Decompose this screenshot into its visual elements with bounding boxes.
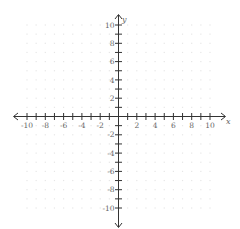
grid-dot: [36, 162, 37, 163]
grid-dot: [127, 107, 128, 108]
grid-dot: [127, 61, 128, 62]
grid-dot: [36, 180, 37, 181]
grid-dot: [81, 153, 82, 154]
grid-dot: [164, 52, 165, 53]
grid-dot: [81, 207, 82, 208]
grid-dot: [63, 79, 64, 80]
grid-dot: [54, 153, 55, 154]
grid-dot: [127, 125, 128, 126]
grid-dot: [127, 70, 128, 71]
grid-dot: [45, 43, 46, 44]
grid-dot: [136, 52, 137, 53]
grid-dot: [63, 180, 64, 181]
grid-dot: [164, 207, 165, 208]
grid-dot: [145, 107, 146, 108]
grid-dot: [100, 162, 101, 163]
grid-dot: [45, 143, 46, 144]
grid-dot: [90, 52, 91, 53]
grid-dot: [200, 43, 201, 44]
grid-dot: [81, 171, 82, 172]
grid-dot: [72, 143, 73, 144]
grid-dot: [63, 34, 64, 35]
grid-dot: [200, 24, 201, 25]
grid-dot: [127, 79, 128, 80]
grid-dot: [209, 70, 210, 71]
grid-dot: [127, 162, 128, 163]
grid-dot: [127, 134, 128, 135]
grid-dot: [209, 88, 210, 89]
grid-dot: [173, 207, 174, 208]
grid-dot: [36, 125, 37, 126]
grid-dot: [90, 88, 91, 89]
grid-dot: [36, 34, 37, 35]
grid-dot: [164, 79, 165, 80]
grid-dot: [127, 34, 128, 35]
grid-dot: [155, 143, 156, 144]
grid-dot: [127, 98, 128, 99]
grid-dot: [26, 61, 27, 62]
grid-dot: [164, 34, 165, 35]
grid-dot: [155, 198, 156, 199]
grid-dot: [45, 24, 46, 25]
grid-dot: [72, 107, 73, 108]
grid-dot: [36, 153, 37, 154]
grid-dot: [63, 162, 64, 163]
grid-dot: [145, 98, 146, 99]
grid-dot: [155, 43, 156, 44]
grid-dot: [164, 43, 165, 44]
grid-dot: [90, 207, 91, 208]
grid-dot: [54, 70, 55, 71]
grid-dot: [200, 153, 201, 154]
grid-dot: [36, 79, 37, 80]
grid-dot: [36, 61, 37, 62]
grid-dot: [109, 162, 110, 163]
grid-dot: [164, 107, 165, 108]
x-tick-label: 8: [189, 121, 194, 130]
grid-dot: [145, 134, 146, 135]
grid-dot: [81, 88, 82, 89]
grid-dot: [173, 24, 174, 25]
grid-dot: [81, 43, 82, 44]
grid-dot: [182, 61, 183, 62]
y-axis-label: y: [121, 15, 127, 24]
grid-dot: [63, 70, 64, 71]
grid-dot: [127, 153, 128, 154]
grid-dot: [63, 52, 64, 53]
grid-dot: [182, 125, 183, 126]
grid-dot: [100, 171, 101, 172]
grid-dot: [45, 34, 46, 35]
grid-dot: [54, 134, 55, 135]
grid-dot: [90, 198, 91, 199]
grid-dot: [72, 189, 73, 190]
y-tick-label: 2: [110, 94, 115, 103]
grid-dot: [182, 198, 183, 199]
grid-dot: [45, 107, 46, 108]
grid-dot: [182, 153, 183, 154]
grid-dot: [164, 162, 165, 163]
grid-dot: [36, 98, 37, 99]
grid-dot: [100, 61, 101, 62]
grid-dot: [26, 143, 27, 144]
grid-dot: [173, 171, 174, 172]
grid-dot: [81, 79, 82, 80]
grid-dot: [145, 61, 146, 62]
grid-dot: [100, 134, 101, 135]
grid-dot: [200, 134, 201, 135]
grid-dot: [191, 153, 192, 154]
grid-dot: [173, 143, 174, 144]
grid-dot: [136, 171, 137, 172]
grid-dot: [63, 189, 64, 190]
grid-dot: [173, 98, 174, 99]
grid-dot: [127, 189, 128, 190]
grid-dot: [127, 198, 128, 199]
grid-dot: [173, 162, 174, 163]
grid-dot: [209, 189, 210, 190]
grid-dot: [63, 24, 64, 25]
grid-dot: [26, 79, 27, 80]
grid-dot: [136, 180, 137, 181]
grid-dot: [90, 162, 91, 163]
grid-dot: [209, 61, 210, 62]
x-tick-label: -8: [42, 121, 50, 130]
grid-dot: [182, 180, 183, 181]
grid-dot: [145, 153, 146, 154]
